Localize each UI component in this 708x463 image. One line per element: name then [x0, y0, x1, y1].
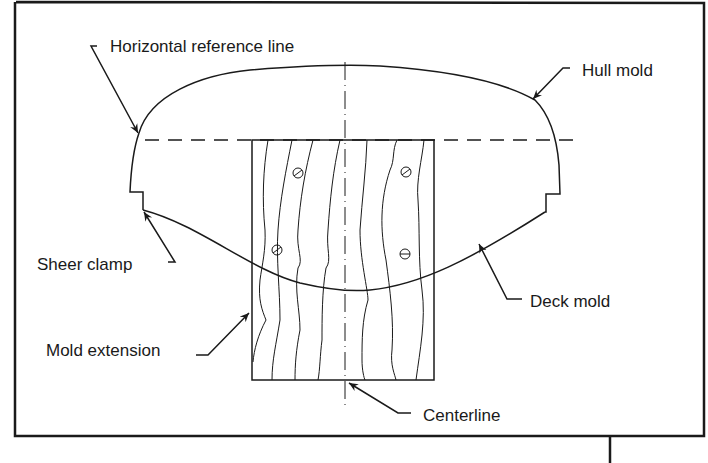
mold-extension-board — [252, 140, 434, 380]
label-sheer-clamp: Sheer clamp — [37, 255, 132, 274]
deck-mold-curve — [143, 210, 545, 291]
leader-deck-mold — [479, 244, 522, 299]
leader-centerline — [349, 383, 411, 413]
label-hull-mold: Hull mold — [582, 61, 653, 80]
leader-mold-extension — [196, 313, 249, 355]
label-centerline: Centerline — [423, 406, 501, 425]
hull-mold-outline — [139, 65, 560, 212]
diagram-canvas: Horizontal reference line Hull mold Shee… — [0, 0, 708, 463]
label-deck-mold: Deck mold — [530, 292, 610, 311]
screws — [272, 167, 411, 259]
label-horizontal-reference-line: Horizontal reference line — [110, 37, 294, 56]
leader-horizontal-reference-line — [91, 46, 138, 133]
wood-grain — [253, 140, 424, 380]
leader-hull-mold — [533, 68, 570, 99]
label-mold-extension: Mold extension — [46, 341, 160, 360]
hull-mold-left-edge — [130, 133, 143, 210]
